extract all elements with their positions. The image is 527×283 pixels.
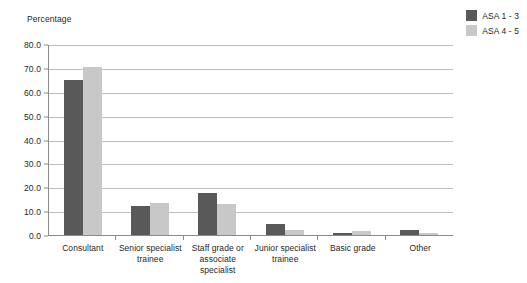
x-axis-label: Staff grade or associate specialist xyxy=(184,243,252,276)
x-axis-label: Junior specialist trainee xyxy=(252,243,320,276)
bar-series-asa-1-3[interactable] xyxy=(333,233,352,235)
bar-series-asa-4-5[interactable] xyxy=(217,204,236,235)
bar-series-asa-1-3[interactable] xyxy=(266,224,285,235)
bar-series-asa-1-3[interactable] xyxy=(131,206,150,235)
legend-item-label: ASA 4 - 5 xyxy=(482,26,519,36)
y-tick-label: 60.0 xyxy=(24,88,48,98)
y-tick-label: 80.0 xyxy=(24,40,48,50)
y-tick-label: 10.0 xyxy=(24,207,48,217)
bar-series-asa-1-3[interactable] xyxy=(198,193,217,235)
x-tick-mark xyxy=(317,235,318,240)
y-tick-label: 30.0 xyxy=(24,159,48,169)
legend-swatch-icon xyxy=(466,25,477,36)
bar-series-asa-4-5[interactable] xyxy=(150,203,169,235)
x-axis-label: Senior specialist trainee xyxy=(117,243,185,276)
x-tick-mark xyxy=(115,235,116,240)
bar-group-consultant xyxy=(49,45,116,235)
x-tick-mark xyxy=(250,235,251,240)
bar-group-junior-specialist-trainee xyxy=(251,45,318,235)
x-tick-mark xyxy=(385,235,386,240)
chart-legend: ASA 1 - 3 ASA 4 - 5 xyxy=(466,10,519,36)
legend-item: ASA 4 - 5 xyxy=(466,25,519,36)
x-axis-label: Other xyxy=(387,243,455,276)
legend-item: ASA 1 - 3 xyxy=(466,10,519,21)
bar-series-asa-4-5[interactable] xyxy=(419,233,438,235)
y-tick-label: 0.0 xyxy=(29,231,48,241)
x-tick-mark xyxy=(183,235,184,240)
bar-series-asa-1-3[interactable] xyxy=(400,230,419,235)
legend-swatch-icon xyxy=(466,10,477,21)
y-tick-label: 70.0 xyxy=(24,64,48,74)
x-axis-label: Consultant xyxy=(49,243,117,276)
x-axis-label: Basic grade xyxy=(319,243,387,276)
chart-container: Percentage ASA 1 - 3 ASA 4 - 5 xyxy=(0,0,527,283)
bar-series-asa-1-3[interactable] xyxy=(64,80,83,235)
x-axis-labels: Consultant Senior specialist trainee Sta… xyxy=(49,243,454,276)
bar-group-basic-grade xyxy=(318,45,385,235)
bar-series-asa-4-5[interactable] xyxy=(285,230,304,235)
y-tick-label: 50.0 xyxy=(24,112,48,122)
legend-item-label: ASA 1 - 3 xyxy=(482,11,519,21)
bar-group-staff-grade-or-associate-specialist xyxy=(184,45,251,235)
plot-area: 80.0 70.0 60.0 50.0 40.0 30.0 20.0 10.0 … xyxy=(48,45,453,236)
bar-group-senior-specialist-trainee xyxy=(116,45,183,235)
y-tick-label: 40.0 xyxy=(24,136,48,146)
bar-groups xyxy=(49,45,453,235)
y-axis-title: Percentage xyxy=(27,14,71,24)
bar-series-asa-4-5[interactable] xyxy=(83,67,102,235)
bar-group-other xyxy=(386,45,453,235)
bar-series-asa-4-5[interactable] xyxy=(352,231,371,235)
y-tick-label: 20.0 xyxy=(24,183,48,193)
